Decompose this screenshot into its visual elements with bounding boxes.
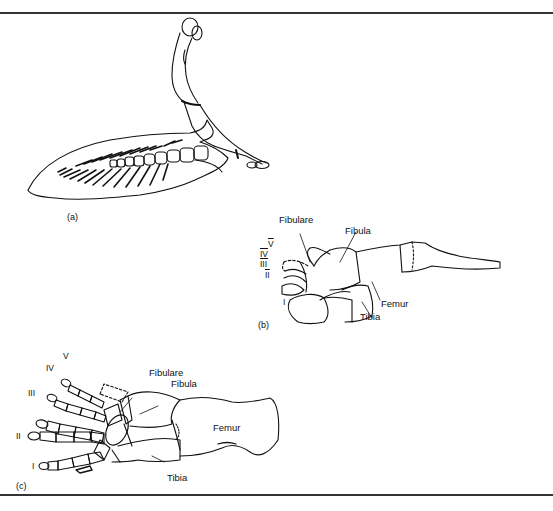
panel-c-label-femur: Femur bbox=[213, 423, 240, 433]
panel-b-label-fibulare: Fibulare bbox=[279, 215, 313, 225]
panel-c-label-fibulare: Fibulare bbox=[149, 368, 183, 378]
panel-c-digit-i: I bbox=[32, 462, 34, 471]
panel-b-label-fibula: Fibula bbox=[345, 226, 371, 236]
panel-c-digit-iv: IV bbox=[46, 364, 54, 373]
panel-b-limb-drawing bbox=[282, 232, 500, 324]
panel-b-digit-v: V bbox=[268, 240, 274, 249]
panel-b-digit-i: I bbox=[283, 298, 285, 307]
panel-c-digit-v: V bbox=[63, 352, 69, 361]
panel-c-label-fibula: Fibula bbox=[171, 379, 197, 389]
panel-a-fin-drawing bbox=[28, 18, 269, 199]
panel-c-digit-ii: II bbox=[16, 432, 21, 441]
panel-c-label-tibia: Tibia bbox=[167, 473, 187, 483]
panel-b-label-tibia: Tibia bbox=[360, 312, 380, 322]
panel-b-caption: (b) bbox=[258, 321, 269, 330]
panel-a-caption: (a) bbox=[67, 213, 78, 222]
panel-b-digit-iv: IV bbox=[260, 250, 268, 259]
panel-b-digit-iii: III bbox=[260, 260, 267, 269]
panel-c-caption: (c) bbox=[16, 482, 27, 491]
panel-b-digit-ii: II bbox=[265, 271, 270, 280]
limb-skeleton-diagram bbox=[0, 0, 553, 511]
panel-b-label-femur: Femur bbox=[381, 299, 408, 309]
panel-c-digit-iii: III bbox=[28, 389, 35, 398]
panel-c-limb-drawing bbox=[28, 378, 279, 473]
